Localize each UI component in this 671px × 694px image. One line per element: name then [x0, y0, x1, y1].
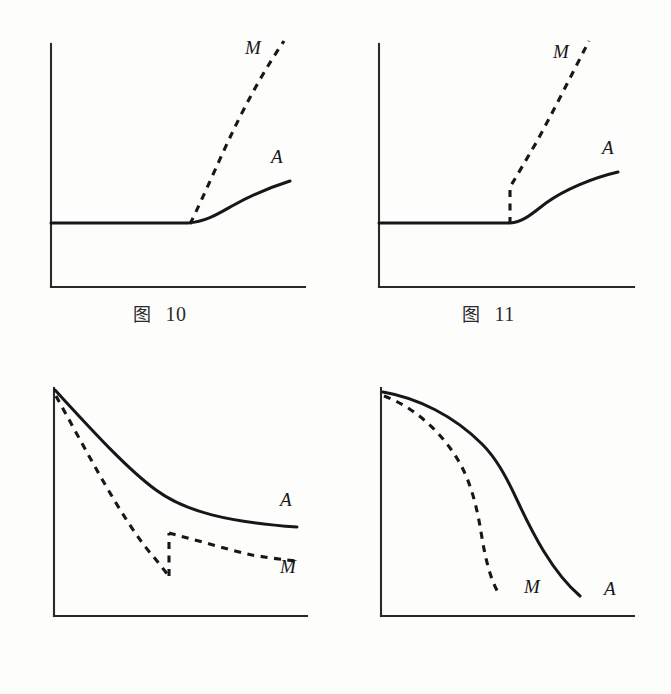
curve-label-a-12: A: [278, 489, 292, 510]
figure-panel-11: M A 图11: [340, 0, 671, 340]
figure-13-plot: M A: [340, 350, 671, 694]
curve-m-12-tail: [169, 533, 296, 561]
figure-panel-12: A M 图12: [0, 350, 340, 694]
curve-label-a-11: A: [600, 137, 614, 158]
curve-m-13: [384, 396, 500, 596]
figure-12-plot: A M: [0, 350, 340, 694]
figure-panel-13: M A 图13: [340, 350, 671, 694]
curve-label-m-13: M: [523, 576, 541, 597]
caption-11-cjk: 图: [462, 304, 481, 325]
figure-panel-10: M A 图10: [0, 0, 340, 340]
curve-m-11: [510, 41, 589, 224]
caption-10-number: 10: [166, 303, 187, 325]
curve-label-a-13: A: [602, 578, 616, 599]
curve-label-a-10: A: [269, 146, 283, 167]
caption-11: 图11: [462, 300, 515, 326]
curve-m-10: [190, 41, 284, 224]
caption-11-number: 11: [495, 303, 515, 325]
curve-a-11: [379, 172, 618, 223]
caption-10: 图10: [133, 300, 187, 326]
figure-11-plot: M A: [340, 0, 671, 340]
curve-a-13: [383, 392, 580, 596]
curve-a-10: [51, 181, 290, 223]
figure-sheet: M A 图10 M A 图11 A M: [0, 0, 671, 694]
curve-label-m-11: M: [552, 41, 570, 62]
figure-10-plot: M A: [0, 0, 340, 340]
caption-10-cjk: 图: [133, 304, 152, 325]
curve-label-m-12: M: [279, 556, 297, 577]
curve-label-m-10: M: [244, 37, 262, 58]
